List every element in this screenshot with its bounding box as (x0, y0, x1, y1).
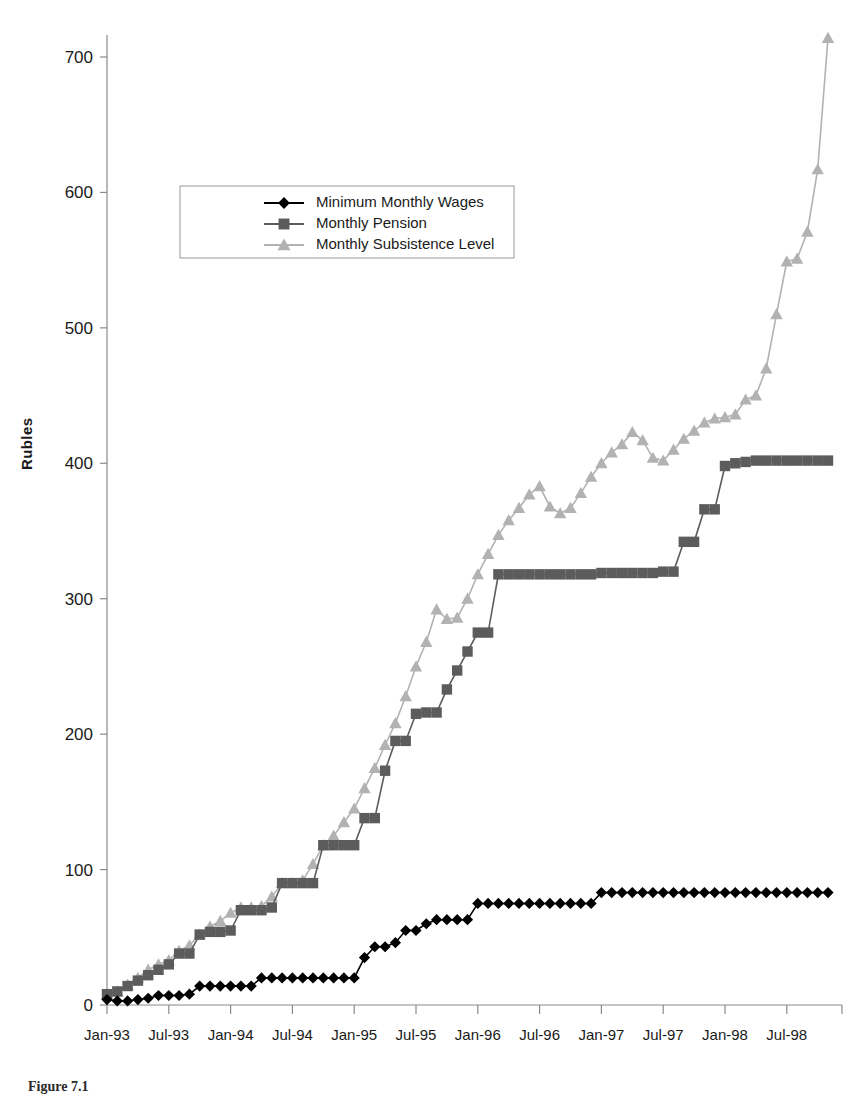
legend-entry-label: Monthly Subsistence Level (316, 235, 494, 252)
data-point (400, 690, 412, 701)
data-point (401, 736, 411, 746)
x-axis-tick-label: Jul-94 (272, 1026, 313, 1043)
data-point (699, 504, 709, 514)
data-point (504, 569, 514, 579)
data-point (277, 972, 288, 983)
data-point (750, 389, 762, 400)
data-point (348, 802, 360, 813)
data-point (544, 898, 555, 909)
data-point (637, 568, 647, 578)
data-point (636, 434, 648, 445)
data-point (143, 993, 154, 1004)
data-point (730, 887, 741, 898)
data-point (689, 887, 700, 898)
data-point (750, 887, 761, 898)
data-point (174, 990, 185, 1001)
data-point (575, 898, 586, 909)
data-point (297, 972, 308, 983)
data-point (534, 569, 544, 579)
legend-entry-label: Minimum Monthly Wages (316, 193, 484, 210)
data-point (225, 925, 235, 935)
data-point (719, 887, 730, 898)
data-point (462, 646, 472, 656)
figure-caption: Figure 7.1 (28, 1079, 88, 1095)
data-point (564, 502, 576, 513)
data-point (781, 887, 792, 898)
data-point (812, 163, 824, 174)
data-point (380, 766, 390, 776)
data-point (410, 925, 421, 936)
data-point (823, 455, 833, 465)
data-point (420, 636, 432, 647)
data-point (370, 813, 380, 823)
data-point (626, 426, 638, 437)
figure-container: Rubles 0100200300400500600700Jan-93Jul-9… (0, 0, 856, 1097)
data-point (678, 887, 689, 898)
data-point (503, 898, 514, 909)
legend-entry-label: Monthly Pension (316, 214, 427, 231)
data-point (730, 458, 740, 468)
x-axis-tick-label: Jul-97 (643, 1026, 684, 1043)
data-point (627, 887, 638, 898)
data-point (782, 455, 792, 465)
y-axis-tick-label: 300 (65, 590, 93, 609)
data-point (349, 840, 359, 850)
legend-marker-square (279, 219, 290, 230)
data-point (514, 569, 524, 579)
data-point (380, 941, 391, 952)
data-point (637, 887, 648, 898)
data-point (349, 972, 360, 983)
data-point (359, 813, 369, 823)
data-point (442, 684, 452, 694)
data-point (801, 226, 813, 237)
data-point (770, 308, 782, 319)
data-point (658, 566, 668, 576)
data-point (452, 914, 463, 925)
series-triangle (101, 32, 834, 999)
data-point (338, 972, 349, 983)
data-point (740, 887, 751, 898)
data-point (112, 986, 122, 996)
data-point (802, 887, 813, 898)
data-point (308, 878, 318, 888)
x-axis-tick-label: Jan-95 (331, 1026, 377, 1043)
data-point (607, 568, 617, 578)
data-point (441, 914, 452, 925)
data-point (647, 887, 658, 898)
data-point (648, 568, 658, 578)
data-point (287, 878, 297, 888)
y-axis-tick-label: 700 (65, 48, 93, 67)
data-point (492, 529, 504, 540)
data-point (431, 707, 441, 717)
data-point (318, 840, 328, 850)
data-point (771, 455, 781, 465)
data-point (533, 480, 545, 491)
data-point (174, 948, 184, 958)
data-point (822, 887, 833, 898)
data-point (513, 898, 524, 909)
data-point (195, 929, 205, 939)
series-line (107, 893, 828, 1001)
data-point (812, 887, 823, 898)
data-point (709, 887, 720, 898)
y-axis-tick-label: 200 (65, 725, 93, 744)
data-point (452, 665, 462, 675)
data-point (710, 504, 720, 514)
data-point (679, 537, 689, 547)
data-point (163, 990, 174, 1001)
x-axis-tick-label: Jul-93 (148, 1026, 189, 1043)
data-point (379, 739, 391, 750)
data-point (472, 898, 483, 909)
data-point (534, 898, 545, 909)
data-point (339, 840, 349, 850)
data-point (369, 762, 381, 773)
data-point (461, 593, 473, 604)
data-point (225, 980, 236, 991)
data-point (153, 965, 163, 975)
data-point (524, 569, 534, 579)
data-point (287, 972, 298, 983)
data-point (565, 569, 575, 579)
y-axis-tick-label: 500 (65, 319, 93, 338)
data-point (575, 487, 587, 498)
data-point (318, 972, 329, 983)
